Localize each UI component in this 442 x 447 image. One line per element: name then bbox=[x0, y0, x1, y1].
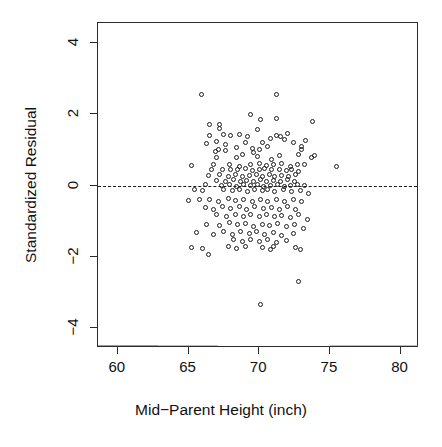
data-point bbox=[265, 237, 270, 242]
data-point bbox=[189, 245, 194, 250]
y-tick-label-neg2: −2 bbox=[64, 247, 81, 264]
data-point bbox=[302, 183, 307, 188]
data-point bbox=[257, 147, 262, 152]
data-point bbox=[235, 222, 240, 227]
data-point bbox=[204, 141, 209, 146]
data-point bbox=[293, 172, 298, 177]
data-point bbox=[258, 197, 263, 202]
data-point bbox=[211, 232, 216, 237]
y-tick-4 bbox=[90, 42, 97, 43]
data-point bbox=[302, 162, 307, 167]
data-point bbox=[245, 134, 250, 139]
y-tick-label-neg4: −4 bbox=[64, 319, 81, 336]
data-point bbox=[243, 244, 248, 249]
data-point bbox=[237, 132, 242, 137]
data-point bbox=[279, 161, 284, 166]
x-axis-title: Mid−Parent Height (inch) bbox=[0, 401, 442, 419]
data-point bbox=[298, 188, 303, 193]
data-point bbox=[298, 247, 303, 252]
data-point bbox=[293, 207, 298, 212]
data-point bbox=[199, 92, 204, 97]
data-point bbox=[250, 199, 255, 204]
data-point bbox=[217, 172, 222, 177]
data-point bbox=[282, 199, 287, 204]
data-point bbox=[296, 152, 301, 157]
data-point bbox=[309, 155, 314, 160]
data-point bbox=[257, 214, 262, 219]
data-point bbox=[291, 197, 296, 202]
data-point bbox=[231, 237, 236, 242]
data-point bbox=[214, 212, 219, 217]
x-tick-65 bbox=[188, 347, 189, 354]
data-point bbox=[238, 229, 243, 234]
data-point bbox=[279, 233, 284, 238]
data-point bbox=[258, 117, 263, 122]
data-point bbox=[217, 223, 222, 228]
data-point bbox=[223, 142, 228, 147]
data-point bbox=[258, 302, 263, 307]
data-point bbox=[197, 197, 202, 202]
data-point bbox=[245, 189, 250, 194]
data-point bbox=[289, 167, 294, 172]
data-point bbox=[243, 140, 248, 145]
data-point bbox=[207, 133, 212, 138]
data-point bbox=[186, 198, 191, 203]
data-point bbox=[240, 152, 245, 157]
data-point bbox=[211, 162, 216, 167]
data-point bbox=[269, 157, 274, 162]
data-point bbox=[226, 244, 231, 249]
data-point bbox=[285, 177, 290, 182]
data-point bbox=[279, 173, 284, 178]
x-tick-80 bbox=[400, 347, 401, 354]
data-point bbox=[299, 199, 304, 204]
data-point bbox=[260, 222, 265, 227]
data-point bbox=[211, 207, 216, 212]
data-point bbox=[228, 206, 233, 211]
y-tick-neg2 bbox=[90, 256, 97, 257]
data-point bbox=[248, 112, 253, 117]
data-point bbox=[288, 183, 293, 188]
data-point bbox=[310, 119, 315, 124]
data-point bbox=[288, 215, 293, 220]
x-tick-70 bbox=[258, 347, 259, 354]
data-point bbox=[285, 131, 290, 136]
data-point bbox=[255, 182, 260, 187]
data-point bbox=[233, 212, 238, 217]
data-point bbox=[234, 246, 239, 251]
data-point bbox=[305, 217, 310, 222]
x-tick-label-80: 80 bbox=[391, 358, 408, 375]
data-point bbox=[272, 189, 277, 194]
data-point bbox=[237, 204, 242, 209]
data-point bbox=[260, 188, 265, 193]
data-point bbox=[234, 145, 239, 150]
data-point bbox=[267, 223, 272, 228]
data-point bbox=[277, 153, 282, 158]
data-point bbox=[217, 126, 222, 131]
data-point bbox=[243, 221, 248, 226]
data-point bbox=[214, 155, 219, 160]
data-point bbox=[230, 188, 235, 193]
data-point bbox=[296, 279, 301, 284]
data-point bbox=[241, 197, 246, 202]
data-point bbox=[224, 214, 229, 219]
data-point bbox=[271, 230, 276, 235]
data-point bbox=[233, 198, 238, 203]
data-point bbox=[265, 144, 270, 149]
data-point bbox=[261, 206, 266, 211]
data-point bbox=[299, 147, 304, 152]
data-point bbox=[227, 220, 232, 225]
x-tick-75 bbox=[329, 347, 330, 354]
x-tick-label-65: 65 bbox=[179, 358, 196, 375]
y-tick-neg4 bbox=[90, 327, 97, 328]
data-point bbox=[295, 182, 300, 187]
plot-area bbox=[97, 22, 418, 347]
data-point bbox=[228, 133, 233, 138]
data-point bbox=[223, 148, 228, 153]
data-point bbox=[289, 189, 294, 194]
data-point bbox=[264, 212, 269, 217]
data-point bbox=[306, 191, 311, 196]
data-point bbox=[213, 149, 218, 154]
data-point bbox=[221, 229, 226, 234]
data-point bbox=[214, 178, 219, 183]
data-point bbox=[275, 221, 280, 226]
